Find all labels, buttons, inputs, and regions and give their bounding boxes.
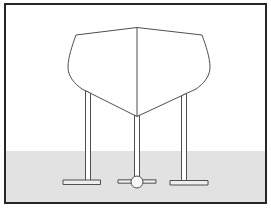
keel-post xyxy=(135,115,140,176)
keel-roller-arm-right xyxy=(143,180,157,183)
keel-roller-arm-left xyxy=(118,180,132,183)
boat-on-stands-figure xyxy=(0,0,271,208)
left-stand-post xyxy=(86,91,91,181)
boat-on-stands-canvas xyxy=(0,0,271,208)
keel-roller xyxy=(131,176,143,188)
right-stand-post xyxy=(182,93,187,181)
left-stand-base-plate xyxy=(63,180,101,185)
right-stand-base-plate xyxy=(170,181,208,186)
